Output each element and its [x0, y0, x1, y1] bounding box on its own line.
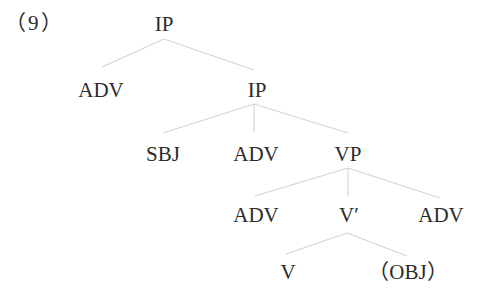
node-adv-4: ADV: [418, 204, 464, 226]
edge-ip2-vp: [254, 104, 348, 133]
edge-vbar-obj: [347, 233, 407, 256]
node-v: V: [280, 261, 295, 283]
node-vp: VP: [335, 143, 362, 165]
node-v-bar: V′: [339, 204, 359, 226]
edge-ip-ip: [164, 39, 254, 70]
example-number: （9）: [5, 12, 64, 34]
node-ip-root: IP: [155, 13, 174, 35]
edge-vbar-v: [286, 233, 347, 254]
node-adv-2: ADV: [233, 143, 279, 165]
node-adv-1: ADV: [78, 79, 124, 101]
edge-vp-adv2: [348, 168, 440, 198]
node-sbj: SBJ: [146, 143, 180, 165]
node-adv-3: ADV: [233, 204, 279, 226]
edge-ip-adv: [102, 39, 164, 67]
node-ip-2: IP: [248, 79, 267, 101]
edge-ip2-sbj: [163, 104, 254, 133]
node-obj: （OBJ）: [368, 261, 447, 283]
edge-vp-adv: [255, 168, 348, 196]
